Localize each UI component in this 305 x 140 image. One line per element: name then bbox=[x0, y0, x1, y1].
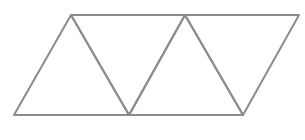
triangles-group bbox=[14, 15, 299, 115]
triangle-2-down bbox=[71, 15, 185, 115]
triangle-3-up bbox=[129, 15, 243, 115]
triangle-1-up bbox=[14, 15, 129, 115]
diagram-svg bbox=[0, 0, 305, 140]
triangle-4-down bbox=[185, 15, 299, 115]
triangle-parallelogram-diagram bbox=[0, 0, 305, 140]
